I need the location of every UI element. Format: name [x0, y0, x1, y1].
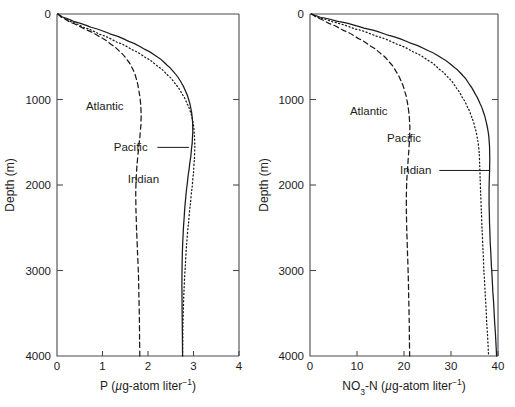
- panel-left-curves: [58, 14, 195, 356]
- curve-right-indian: [311, 14, 496, 356]
- curve-left-indian: [58, 14, 195, 356]
- panel-left-ytick-labels: 01000200030004000: [25, 8, 51, 362]
- xtick-label-right-2: 20: [398, 360, 411, 372]
- panel-right-yaxis-title: Depth (m): [257, 158, 271, 211]
- panel-left-annotations: AtlanticPacificIndian: [86, 100, 189, 185]
- panel-left: 01234 01000200030004000 AtlanticPacificI…: [3, 8, 243, 393]
- panel-right-xaxis-title: NO3-N (µg-atom liter−1): [342, 377, 465, 397]
- curve-annotation-indian: Indian: [400, 164, 431, 176]
- ocean-nutrient-depth-profile-figure: 01234 01000200030004000 AtlanticPacificI…: [0, 0, 515, 407]
- ytick-label-right-0: 0: [298, 8, 304, 20]
- curve-right-pacific: [311, 14, 488, 356]
- xtick-label-left-3: 3: [190, 360, 196, 372]
- ytick-label-right-1: 1000: [278, 94, 304, 106]
- ytick-label-left-4: 4000: [25, 350, 51, 362]
- xtick-label-right-4: 40: [492, 360, 505, 372]
- ytick-label-left-1: 1000: [25, 94, 51, 106]
- curve-annotation-atlantic: Atlantic: [86, 100, 124, 112]
- curve-annotation-pacific: Pacific: [114, 141, 148, 153]
- panel-right-xticks: [357, 351, 498, 356]
- xtick-label-right-1: 10: [351, 360, 364, 372]
- xtick-label-left-2: 2: [145, 360, 151, 372]
- panel-right-yticks: [310, 100, 498, 271]
- ytick-label-left-0: 0: [45, 8, 51, 20]
- ytick-label-right-3: 3000: [278, 265, 304, 277]
- panel-right-ytick-labels: 01000200030004000: [278, 8, 304, 362]
- ytick-label-left-3: 3000: [25, 265, 51, 277]
- ytick-label-right-2: 2000: [278, 179, 304, 191]
- panel-right: 010203040 01000200030004000 AtlanticPaci…: [257, 8, 504, 397]
- ytick-label-left-2: 2000: [25, 179, 51, 191]
- panel-right-spine: [310, 14, 498, 356]
- panel-left-xticks: [103, 351, 240, 356]
- xtick-label-right-0: 0: [307, 360, 313, 372]
- panel-right-axes: 010203040 01000200030004000: [278, 8, 504, 372]
- xtick-label-left-1: 1: [99, 360, 105, 372]
- curve-annotation-indian: Indian: [128, 173, 159, 185]
- panel-right-xtick-labels: 010203040: [307, 360, 505, 372]
- panel-left-yaxis-title: Depth (m): [3, 158, 17, 211]
- panel-left-axes: 01234 01000200030004000: [25, 8, 242, 372]
- curve-right-atlantic: [311, 14, 409, 356]
- panel-right-curves: [311, 14, 496, 356]
- panel-right-annotations: AtlanticPacificIndian: [350, 105, 490, 176]
- panel-left-xtick-labels: 01234: [54, 360, 243, 372]
- xtick-label-right-3: 30: [445, 360, 458, 372]
- ytick-label-right-4: 4000: [278, 350, 304, 362]
- panel-left-xaxis-title: P (µg-atom liter−1): [100, 377, 196, 393]
- curve-left-pacific: [58, 14, 193, 356]
- xtick-label-left-4: 4: [236, 360, 243, 372]
- xtick-label-left-0: 0: [54, 360, 60, 372]
- curve-annotation-atlantic: Atlantic: [350, 105, 388, 117]
- curve-annotation-pacific: Pacific: [387, 132, 421, 144]
